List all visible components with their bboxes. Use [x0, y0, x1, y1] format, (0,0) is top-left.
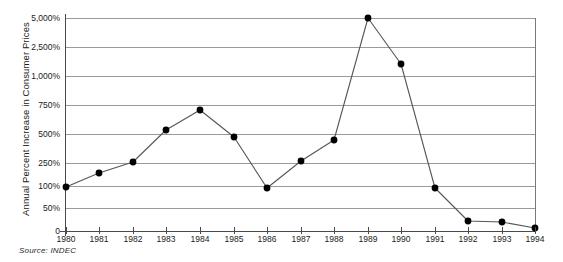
x-tick-mark-1990: [401, 227, 402, 234]
x-tick-mark-1989: [368, 227, 369, 234]
data-point-markers: [63, 15, 539, 232]
inflation-line-chart: Annual Percent Increase in Consumer Pric…: [0, 0, 563, 262]
data-point-1985: [231, 134, 238, 141]
data-point-1989: [365, 15, 372, 22]
x-tick-mark-1988: [334, 227, 335, 234]
data-series-layer: [0, 0, 563, 262]
data-point-1984: [197, 107, 204, 114]
data-point-1983: [163, 127, 170, 134]
x-tick-mark-1984: [200, 227, 201, 234]
data-point-1988: [331, 137, 338, 144]
x-tick-mark-1982: [133, 227, 134, 234]
x-tick-mark-1987: [301, 227, 302, 234]
data-point-1991: [432, 185, 439, 192]
data-point-1987: [298, 158, 305, 165]
source-note: Source: INDEC: [19, 246, 76, 255]
x-tick-mark-1983: [166, 227, 167, 234]
data-line: [66, 18, 535, 228]
x-tick-mark-1980: [66, 227, 67, 234]
x-tick-mark-1986: [267, 227, 268, 234]
data-point-1986: [264, 185, 271, 192]
data-point-1992: [465, 218, 472, 225]
data-point-1993: [499, 219, 506, 226]
x-tick-mark-1993: [502, 227, 503, 234]
data-point-1981: [96, 170, 103, 177]
data-point-1982: [130, 159, 137, 166]
data-point-1980: [63, 184, 70, 191]
data-point-1990: [398, 61, 405, 68]
x-tick-mark-1991: [435, 227, 436, 234]
x-tick-mark-1994: [535, 227, 536, 234]
x-tick-mark-1985: [234, 227, 235, 234]
x-tick-mark-1992: [468, 227, 469, 234]
x-tick-mark-1981: [99, 227, 100, 234]
